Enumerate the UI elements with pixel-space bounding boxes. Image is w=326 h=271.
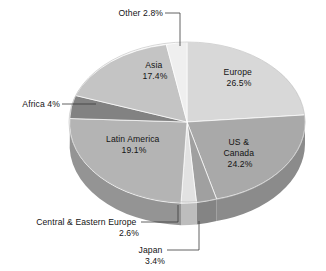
leader-line-japan [167, 221, 199, 250]
label-asia: Asia 17.4% [143, 60, 168, 81]
label-latin-america-line2: 19.1% [122, 145, 147, 155]
side-wall-cee [181, 203, 197, 226]
label-cee-line2: 2.6% [119, 228, 139, 238]
label-us-canada-line1: US & [229, 137, 250, 147]
side-wall-japan [197, 199, 217, 225]
label-latin-america-line1: Latin America [106, 134, 159, 144]
slice-latin-america [70, 119, 187, 204]
label-europe-line2: 26.5% [227, 78, 252, 88]
label-europe-line1: Europe [224, 67, 252, 77]
label-asia-line2: 17.4% [143, 71, 168, 81]
label-japan: Japan 3.4% [139, 245, 166, 266]
leader-line-other [165, 13, 180, 46]
pie-chart-figure: Europe 26.5% Asia 17.4% Latin America 19… [0, 0, 326, 271]
label-japan-line2: 3.4% [145, 256, 165, 266]
label-central-eastern-europe: Central & Eastern Europe 2.6% [36, 217, 139, 238]
label-cee-line1: Central & Eastern Europe [36, 217, 136, 227]
pie-chart-svg: Europe 26.5% Asia 17.4% Latin America 19… [0, 0, 326, 271]
label-europe: Europe 26.5% [224, 67, 255, 88]
label-africa: Africa 4% [22, 99, 60, 109]
label-japan-line1: Japan [139, 245, 163, 255]
label-us-canada-line3: 24.2% [228, 159, 253, 169]
label-us-canada-line2: Canada [223, 148, 254, 158]
label-other: Other 2.8% [119, 8, 164, 18]
label-asia-line1: Asia [145, 60, 162, 70]
